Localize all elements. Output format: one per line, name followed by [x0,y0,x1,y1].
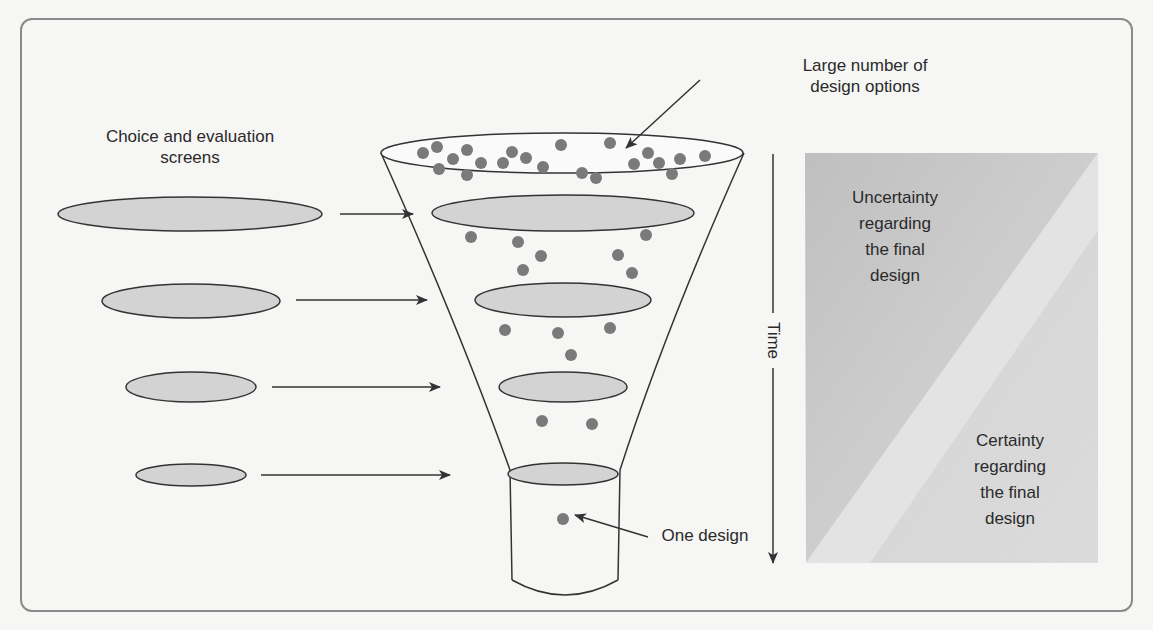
screen-2 [102,284,280,318]
large-number-label: Large number of design options [745,55,985,97]
screens-label: Choice and evaluation screens [78,126,302,168]
time-label: Time [763,316,784,366]
screen-arrows [261,214,450,475]
certainty-label: Certainty regarding the final design [950,428,1070,532]
screen-3 [126,372,256,402]
uncertainty-label: Uncertainty regarding the final design [835,185,955,289]
one-design-label: One design [650,525,760,546]
screen-4 [136,464,246,486]
screen-ellipses [58,197,322,486]
screen-1 [58,197,322,231]
